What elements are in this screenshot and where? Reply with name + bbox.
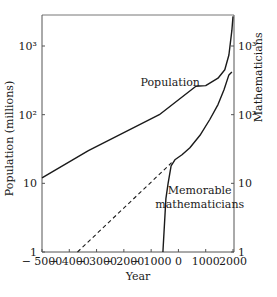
annotation-mathematicians: mathematicians	[155, 198, 244, 211]
y-tick-label-left: 10²	[19, 109, 37, 122]
x-tick-label: 0	[175, 255, 182, 268]
y-tick-label-right: 10	[238, 177, 252, 190]
y-tick-label-left: 10	[23, 177, 37, 190]
chart: − 5000− 4000− 3000− 2000− 10000100020001…	[0, 0, 277, 297]
y-tick-label-left: 1	[30, 246, 37, 259]
series-population	[42, 16, 233, 178]
y-tick-label-right: 1	[238, 246, 245, 259]
series-memorable-mathematicians	[163, 72, 232, 252]
y-axis-title: Population (millions)	[3, 81, 16, 196]
y2-axis-title: Mathematicians	[252, 32, 265, 122]
annotation-population: Population	[141, 76, 200, 89]
x-axis-title: Year	[125, 270, 151, 283]
annotation-memorable: Memorable	[168, 184, 232, 197]
x-tick-label: 1000	[192, 255, 220, 268]
x-tick-label: − 1000	[131, 255, 172, 268]
y-tick-label-left: 10³	[19, 40, 37, 53]
